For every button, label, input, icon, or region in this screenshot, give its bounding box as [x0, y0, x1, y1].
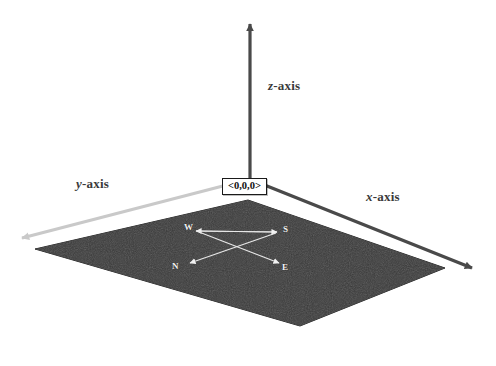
- y-axis-label-suffix: -axis: [82, 176, 109, 191]
- compass-label-north: N: [172, 261, 179, 271]
- y-axis-label: y-axis: [76, 176, 109, 192]
- compass-label-west: W: [184, 222, 193, 232]
- x-axis-label: x-axis: [366, 189, 400, 205]
- z-axis-label-suffix: -axis: [273, 78, 300, 93]
- x-axis-label-suffix: -axis: [373, 189, 400, 204]
- x-axis-label-var: x: [366, 189, 373, 204]
- origin-label: <0,0,0>: [222, 178, 267, 195]
- compass-label-east: E: [282, 262, 288, 272]
- coordinate-system-diagram: z-axis y-axis x-axis <0,0,0> W S N E: [0, 0, 496, 366]
- compass-label-south: S: [283, 224, 288, 234]
- z-axis-label: z-axis: [268, 78, 300, 94]
